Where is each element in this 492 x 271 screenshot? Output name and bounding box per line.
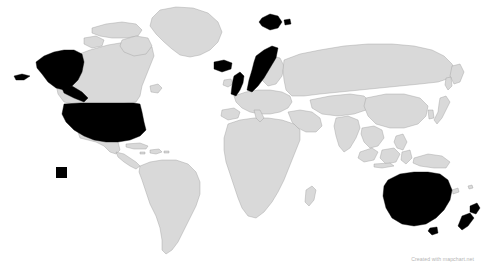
region-svalbard-island-east	[284, 19, 291, 25]
region-united-states-highlighted	[62, 103, 146, 142]
region-central-america	[116, 152, 140, 169]
region-new-guinea	[413, 154, 450, 168]
attribution-watermark: Created with mapchart.net	[411, 256, 474, 262]
region-sumatra	[358, 148, 378, 162]
region-south-america	[139, 160, 200, 254]
region-canada-arctic-islands	[92, 22, 142, 38]
region-java	[374, 163, 394, 168]
region-victoria-island	[84, 36, 104, 48]
world-map-canvas: Created with mapchart.net	[0, 0, 492, 271]
region-africa	[224, 118, 300, 218]
region-sakhalin	[445, 77, 452, 90]
region-jamaica	[140, 152, 145, 154]
region-new-caledonia	[452, 188, 459, 194]
region-europe-mainland	[234, 90, 292, 114]
region-australia-highlighted	[383, 172, 452, 226]
world-map-svg	[0, 0, 492, 271]
region-puerto-rico	[164, 151, 169, 153]
region-fiji	[468, 185, 473, 189]
region-iberia	[221, 108, 240, 120]
region-philippines	[394, 134, 407, 150]
region-new-zealand-north-highlighted	[470, 203, 480, 214]
region-kamchatka	[450, 64, 464, 84]
region-sulawesi	[401, 150, 412, 164]
region-tasmania-highlighted	[428, 227, 438, 235]
region-iceland-highlighted	[214, 60, 232, 72]
region-hispaniola	[150, 149, 162, 154]
region-madagascar	[305, 186, 316, 206]
region-india	[334, 116, 360, 152]
region-japan	[434, 96, 450, 124]
hawaii-inset-box	[55, 166, 68, 179]
region-greenland	[150, 7, 222, 57]
region-aleutian-islands-highlighted	[14, 74, 30, 80]
region-korea	[428, 110, 434, 119]
region-indochina	[361, 126, 384, 148]
region-ireland	[223, 79, 233, 87]
region-central-asia	[310, 94, 370, 116]
region-russia	[283, 44, 456, 96]
region-svalbard-highlighted	[259, 14, 282, 30]
region-united-kingdom-highlighted	[231, 72, 244, 96]
region-china	[364, 94, 428, 128]
region-borneo	[380, 148, 400, 164]
region-new-zealand-south-highlighted	[458, 213, 474, 230]
region-newfoundland	[150, 84, 162, 93]
region-cuba	[126, 143, 148, 149]
